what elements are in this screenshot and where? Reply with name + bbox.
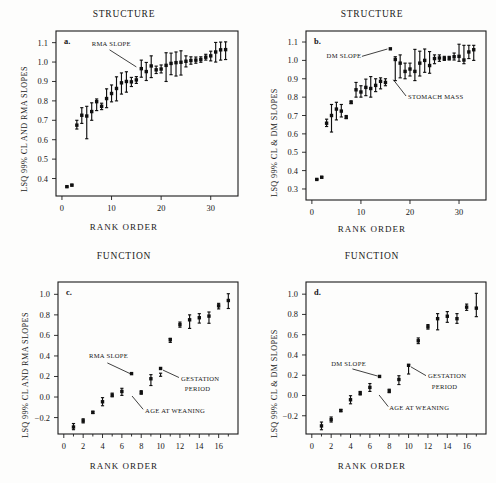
- svg-text:1.0: 1.0: [288, 290, 298, 299]
- svg-text:0.6: 0.6: [38, 136, 48, 145]
- svg-text:DM SLOPE: DM SLOPE: [331, 360, 366, 367]
- svg-text:RMA SLOPE: RMA SLOPE: [92, 40, 131, 47]
- svg-text:c.: c.: [66, 288, 72, 297]
- svg-text:12: 12: [176, 442, 184, 451]
- svg-text:STOMACH MASS: STOMACH MASS: [408, 93, 463, 100]
- svg-text:0.0: 0.0: [40, 393, 50, 402]
- svg-text:0.8: 0.8: [288, 93, 298, 102]
- panel-a-plot: 01020300.40.50.60.70.80.91.01.1a.RMA SLO…: [0, 0, 248, 241]
- svg-text:0: 0: [310, 442, 314, 451]
- svg-text:1.0: 1.0: [40, 290, 50, 299]
- svg-text:6: 6: [120, 442, 124, 451]
- svg-text:1.1: 1.1: [38, 39, 48, 48]
- svg-text:0.7: 0.7: [38, 116, 48, 125]
- svg-text:1.1: 1.1: [288, 38, 298, 47]
- panel-d-xlabel: RANK ORDER: [248, 461, 496, 471]
- panel-c-ylabel: LSQ 99% CL AND RMA SLOPES: [21, 312, 30, 438]
- svg-text:8: 8: [387, 442, 391, 451]
- svg-text:−0.2: −0.2: [283, 412, 298, 421]
- svg-text:DM SLOPE: DM SLOPE: [327, 52, 362, 59]
- svg-text:10: 10: [357, 208, 365, 217]
- svg-text:8: 8: [139, 442, 143, 451]
- svg-text:30: 30: [207, 204, 215, 213]
- panel-c: FUNCTION 0246810121416−0.20.00.20.40.60.…: [0, 242, 248, 483]
- svg-text:a.: a.: [64, 37, 70, 46]
- svg-text:AGE AT WEANING: AGE AT WEANING: [145, 407, 205, 414]
- svg-text:16: 16: [462, 442, 470, 451]
- panel-a-ylabel: LSQ 99% CL AND RMA SLOPES: [20, 66, 29, 192]
- svg-text:d.: d.: [314, 288, 321, 297]
- svg-text:PERIOD: PERIOD: [432, 383, 458, 390]
- svg-text:PERIOD: PERIOD: [185, 385, 211, 392]
- svg-text:0: 0: [60, 204, 64, 213]
- svg-text:AGE AT WEANING: AGE AT WEANING: [389, 404, 449, 411]
- svg-text:0.6: 0.6: [40, 331, 50, 340]
- svg-text:RMA SLOPE: RMA SLOPE: [89, 352, 128, 359]
- svg-text:GESTATION: GESTATION: [181, 375, 219, 382]
- svg-text:10: 10: [107, 204, 115, 213]
- svg-text:0: 0: [62, 442, 66, 451]
- panel-b-xlabel: RANK ORDER: [248, 224, 496, 234]
- svg-text:0.2: 0.2: [40, 372, 50, 381]
- svg-text:2: 2: [81, 442, 85, 451]
- svg-text:−0.2: −0.2: [35, 414, 50, 423]
- svg-text:1.0: 1.0: [288, 56, 298, 65]
- svg-text:0.5: 0.5: [38, 155, 48, 164]
- svg-text:30: 30: [455, 208, 463, 217]
- panel-b-ylabel: LSQ 99% CL & DM SLOPES: [270, 88, 279, 197]
- svg-text:14: 14: [443, 442, 452, 451]
- svg-text:GESTATION: GESTATION: [428, 372, 466, 379]
- svg-text:0.9: 0.9: [288, 75, 298, 84]
- panel-a-xlabel: RANK ORDER: [0, 222, 248, 232]
- svg-text:0.4: 0.4: [288, 167, 299, 176]
- svg-text:0.9: 0.9: [38, 77, 48, 86]
- svg-text:b.: b.: [314, 37, 321, 46]
- panel-b-plot: 01020300.30.40.50.60.70.80.91.01.1b.DM S…: [248, 0, 496, 241]
- svg-text:12: 12: [424, 442, 432, 451]
- svg-text:0.5: 0.5: [288, 148, 298, 157]
- panel-c-plot: 0246810121416−0.20.00.20.40.60.81.0c.RMA…: [0, 242, 248, 483]
- svg-text:0.4: 0.4: [38, 175, 49, 184]
- svg-text:16: 16: [214, 442, 222, 451]
- svg-text:0.2: 0.2: [288, 371, 298, 380]
- svg-text:1.0: 1.0: [38, 58, 48, 67]
- svg-text:0.4: 0.4: [288, 351, 299, 360]
- panel-d: FUNCTION 0246810121416−0.20.00.20.40.60.…: [248, 242, 496, 483]
- svg-text:0.8: 0.8: [40, 311, 50, 320]
- svg-text:0.6: 0.6: [288, 130, 298, 139]
- panel-d-plot: 0246810121416−0.20.00.20.40.60.81.0d.DM …: [248, 242, 496, 483]
- svg-text:4: 4: [348, 442, 353, 451]
- svg-text:0.6: 0.6: [288, 331, 298, 340]
- svg-text:0.4: 0.4: [40, 352, 51, 361]
- svg-text:0.0: 0.0: [288, 391, 298, 400]
- figure-canvas: STRUCTURE 01020300.40.50.60.70.80.91.01.…: [0, 0, 496, 483]
- svg-text:0: 0: [310, 208, 314, 217]
- svg-text:20: 20: [157, 204, 165, 213]
- svg-text:0.8: 0.8: [38, 97, 48, 106]
- panel-a: STRUCTURE 01020300.40.50.60.70.80.91.01.…: [0, 0, 248, 241]
- svg-text:10: 10: [404, 442, 412, 451]
- svg-text:20: 20: [406, 208, 414, 217]
- svg-text:2: 2: [329, 442, 333, 451]
- svg-text:10: 10: [156, 442, 164, 451]
- svg-text:0.8: 0.8: [288, 310, 298, 319]
- svg-text:14: 14: [195, 442, 204, 451]
- panel-d-ylabel: LSQ 99% CL & DM SLOPES: [270, 329, 279, 438]
- svg-text:4: 4: [100, 442, 105, 451]
- svg-text:0.7: 0.7: [288, 112, 298, 121]
- panel-b: STRUCTURE 01020300.30.40.50.60.70.80.91.…: [248, 0, 496, 241]
- svg-text:6: 6: [368, 442, 372, 451]
- svg-text:0.3: 0.3: [288, 185, 298, 194]
- panel-c-xlabel: RANK ORDER: [0, 461, 248, 471]
